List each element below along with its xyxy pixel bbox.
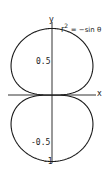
equation-rhs: = −sin θ xyxy=(71,26,102,34)
tick-label-neg-1: -1 xyxy=(43,158,53,166)
equation-label: r2 = −sin θ xyxy=(61,22,101,34)
x-axis-label: x xyxy=(97,90,102,98)
equation-exponent: 2 xyxy=(64,22,68,29)
y-axis-label: y xyxy=(49,16,54,24)
tick-label-0.5: 0.5 xyxy=(36,58,50,66)
tick-label-neg-0.5: -0.5 xyxy=(31,139,50,147)
